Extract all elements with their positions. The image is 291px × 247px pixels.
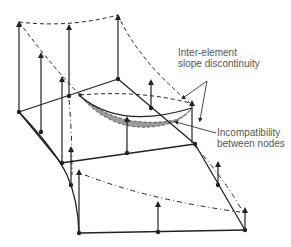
node — [39, 130, 43, 134]
node — [193, 142, 197, 146]
slope-leader-1 — [183, 81, 207, 98]
top-front-edge — [80, 94, 190, 103]
leader-lines — [176, 81, 216, 133]
node — [77, 231, 81, 235]
node — [116, 77, 120, 81]
mesh-lines — [19, 79, 245, 233]
slope-label-line1: Inter-element — [178, 47, 237, 58]
node — [156, 230, 160, 234]
mesh-line — [195, 144, 245, 230]
node — [60, 161, 64, 165]
mesh-line — [79, 230, 245, 233]
deformed-surface-dashed — [19, 15, 190, 103]
incompat-leader — [176, 122, 216, 133]
node — [67, 94, 71, 98]
node — [17, 110, 21, 114]
incompatibility-shading — [80, 96, 192, 127]
slope-label-line2: slope discontinuity — [178, 58, 260, 69]
node — [149, 106, 153, 110]
node — [125, 151, 129, 155]
left-curved-edge — [19, 112, 79, 233]
node — [69, 183, 73, 187]
plate-element-diagram: Inter-element slope discontinuity Incomp… — [0, 0, 291, 247]
top-back-edge — [19, 15, 118, 24]
node — [243, 228, 247, 232]
mesh-line — [118, 79, 195, 144]
top-left-edge — [19, 22, 80, 95]
node — [216, 183, 220, 187]
middle-curved-edge — [80, 96, 192, 117]
slope-leader-2 — [200, 81, 207, 120]
node — [78, 93, 82, 97]
deformed-surface-dashdot — [69, 100, 243, 212]
incompat-label-line1: Incompatibility — [217, 127, 280, 138]
incompat-label-line2: between nodes — [217, 138, 285, 149]
